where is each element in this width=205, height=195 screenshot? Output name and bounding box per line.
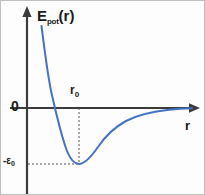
equilibrium-distance-subscript: 0	[75, 90, 79, 99]
y-axis-label-argument: (r)	[59, 7, 75, 24]
y-axis-arrowhead	[22, 6, 31, 17]
equilibrium-distance-symbol: r	[70, 83, 75, 97]
well-depth-subscript: 0	[11, 160, 15, 167]
origin-label: 0	[11, 99, 19, 113]
well-depth-label: -ε0	[3, 156, 15, 166]
x-axis-label: r	[185, 119, 190, 132]
well-depth-symbol: -ε	[3, 155, 11, 166]
potential-energy-figure: Epot(r) r 0 r0 -ε0	[0, 0, 205, 195]
potential-curve-plot	[1, 1, 205, 195]
equilibrium-distance-label: r0	[70, 84, 79, 96]
y-axis-label: Epot(r)	[37, 8, 74, 23]
y-axis-label-symbol: E	[37, 7, 47, 24]
potential-energy-curve	[42, 26, 193, 164]
y-axis-label-subscript: pot	[47, 17, 59, 26]
